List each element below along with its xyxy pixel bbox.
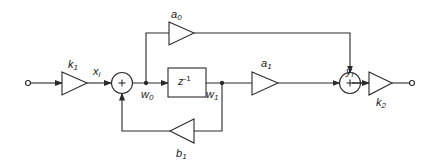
label-b1: b1	[176, 148, 187, 161]
label-yi: yi	[346, 66, 353, 79]
gain-a1	[252, 72, 278, 95]
gain-k2	[369, 72, 392, 95]
label-k1: k1	[68, 59, 78, 72]
input-terminal	[26, 81, 31, 86]
label-delay: z-1	[178, 75, 191, 87]
gain-k1	[62, 72, 87, 95]
block-diagram: k1 xi w0 z-1 w1 a0 a1 b1 yi k2	[0, 0, 442, 163]
label-w0: w0	[141, 89, 153, 102]
label-a1: a1	[261, 58, 272, 71]
label-w1: w1	[206, 89, 218, 102]
label-k2: k2	[376, 97, 386, 110]
diagram-wires	[0, 0, 442, 163]
label-a0: a0	[171, 9, 182, 22]
output-terminal	[410, 81, 415, 86]
gain-a0	[169, 22, 194, 45]
gain-b1	[170, 119, 194, 143]
label-xi: xi	[93, 66, 100, 79]
